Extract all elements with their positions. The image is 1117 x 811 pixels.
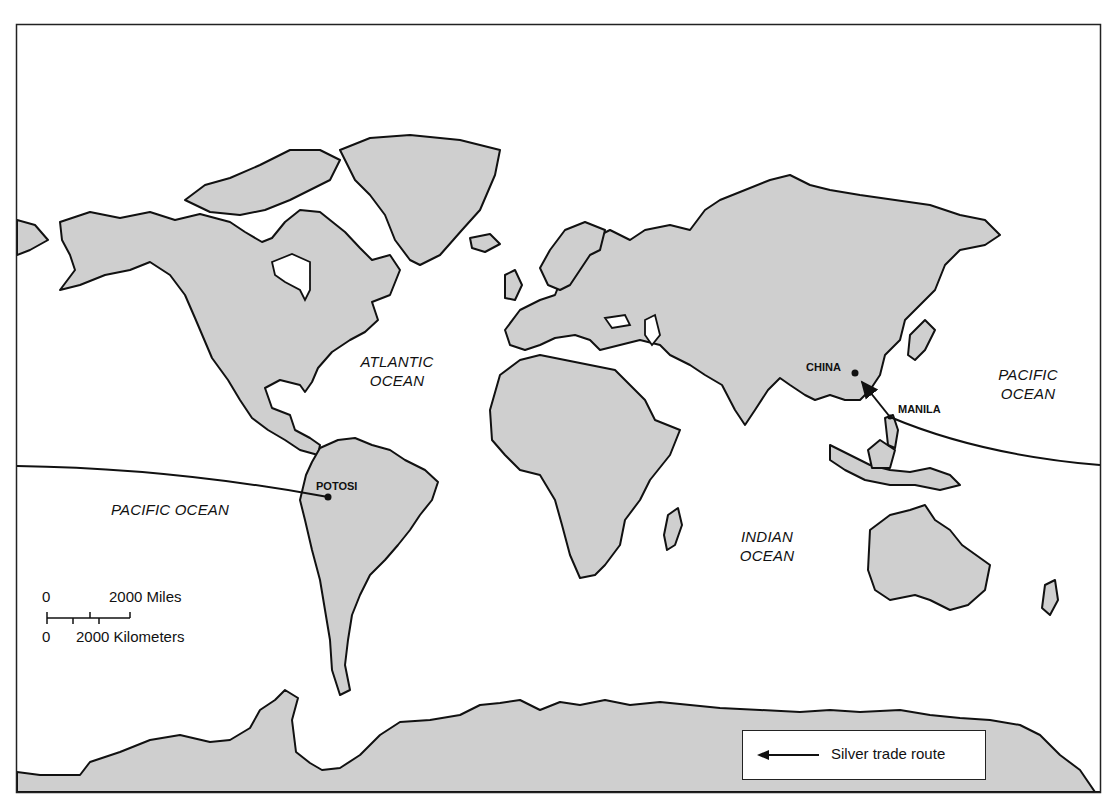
landmass-arctic-archipelago — [185, 150, 340, 215]
ocean-label-pacific-west: PACIFIC OCEAN — [85, 500, 255, 519]
manila-marker — [888, 415, 893, 420]
legend-box: Silver trade route — [742, 730, 986, 780]
silver-trade-route-west — [17, 466, 328, 497]
ocean-label-line: OCEAN — [983, 384, 1073, 403]
ocean-label-line: ATLANTIC — [347, 352, 447, 371]
china-marker — [852, 370, 859, 377]
silver-trade-route-china — [862, 382, 890, 417]
city-label-manila: MANILA — [898, 403, 941, 415]
landmass-japan — [908, 320, 935, 360]
ocean-label-indian: INDIAN OCEAN — [722, 527, 812, 565]
scale-km-label: 2000 Kilometers — [76, 628, 184, 645]
landmass-australia — [868, 505, 990, 610]
ocean-label-atlantic: ATLANTIC OCEAN — [347, 352, 447, 390]
landmass-south-america — [300, 438, 438, 695]
arrow-left-icon — [757, 747, 821, 763]
ocean-label-line: PACIFIC — [983, 365, 1073, 384]
ocean-label-line: PACIFIC OCEAN — [85, 500, 255, 519]
scale-bar — [47, 612, 130, 624]
landmass-new-zealand — [1042, 580, 1058, 615]
landmass-iceland — [470, 234, 500, 252]
scale-miles-label: 2000 Miles — [109, 588, 182, 605]
legend-label-silver-trade-route: Silver trade route — [831, 745, 945, 762]
scale-km-zero: 0 — [42, 628, 50, 645]
ocean-label-line: INDIAN — [722, 527, 812, 546]
ocean-label-line: OCEAN — [347, 371, 447, 390]
world-map — [0, 0, 1117, 811]
city-label-potosi: POTOSI — [316, 480, 357, 492]
ocean-label-pacific-east: PACIFIC OCEAN — [983, 365, 1073, 403]
landmass-africa — [490, 355, 680, 578]
landmass-north-america — [17, 210, 400, 455]
scale-miles-zero: 0 — [42, 588, 50, 605]
city-label-china: CHINA — [806, 361, 841, 373]
landmass-madagascar — [664, 508, 682, 550]
ocean-label-line: OCEAN — [722, 546, 812, 565]
potosi-marker — [325, 494, 332, 501]
landmass-british-isles — [505, 270, 522, 300]
silver-trade-route-east — [890, 417, 1100, 465]
